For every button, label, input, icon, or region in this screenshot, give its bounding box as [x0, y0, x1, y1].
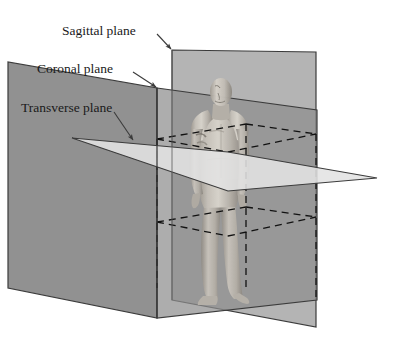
coronal-plane-label: Coronal plane — [37, 61, 113, 76]
sagittal-plane-label: Sagittal plane — [62, 23, 136, 38]
neck — [212, 104, 230, 120]
anatomical-planes-diagram: Sagittal plane Coronal plane Transverse … — [0, 0, 400, 340]
planes-scene: Sagittal plane Coronal plane Transverse … — [0, 0, 400, 340]
head — [210, 78, 232, 106]
transverse-plane-label: Transverse plane — [21, 100, 112, 115]
